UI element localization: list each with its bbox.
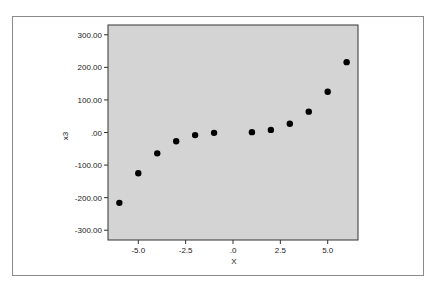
plot-area: [108, 25, 358, 240]
data-point-marker: [306, 108, 312, 114]
data-point-marker: [268, 127, 274, 133]
y-axis: 300.00200.00100.00.00-100.00-200.00-300.…: [75, 31, 108, 235]
data-point-marker: [343, 59, 349, 65]
x-axis: -5.0-2.5.02.55.0: [131, 240, 333, 255]
y-tick-label: -100.00: [75, 161, 103, 170]
data-point-marker: [287, 121, 293, 127]
data-point-marker: [192, 132, 198, 138]
y-axis-title: x3: [61, 131, 70, 140]
data-point-marker: [249, 129, 255, 135]
y-tick-label: -200.00: [75, 194, 103, 203]
x-tick-label: -5.0: [131, 246, 145, 255]
data-point-marker: [211, 130, 217, 136]
x-axis-title: X: [231, 257, 237, 266]
data-point-marker: [135, 170, 141, 176]
y-tick-label: .00: [91, 129, 103, 138]
data-point-marker: [116, 200, 122, 206]
y-tick-label: 300.00: [78, 31, 103, 40]
scatter-chart: 300.00200.00100.00.00-100.00-200.00-300.…: [0, 0, 437, 289]
x-tick-label: 5.0: [322, 246, 334, 255]
data-point-marker: [324, 89, 330, 95]
y-tick-label: 100.00: [78, 96, 103, 105]
y-tick-label: -300.00: [75, 226, 103, 235]
x-tick-label: .0: [230, 246, 237, 255]
data-point-marker: [154, 150, 160, 156]
y-tick-label: 200.00: [78, 63, 103, 72]
data-point-marker: [173, 138, 179, 144]
x-tick-label: -2.5: [179, 246, 193, 255]
x-tick-label: 2.5: [275, 246, 287, 255]
